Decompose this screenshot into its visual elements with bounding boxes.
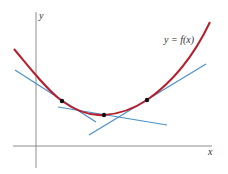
y-axis-label: y xyxy=(38,10,44,21)
tangent-point-1 xyxy=(60,99,64,103)
tangent-line-2 xyxy=(58,107,167,125)
tangent-point-3 xyxy=(145,98,149,102)
tangent-point-2 xyxy=(102,113,106,117)
tangent-lines-diagram: y x y = f(x) xyxy=(0,0,228,174)
x-axis-label: x xyxy=(207,146,213,157)
curve-label: y = f(x) xyxy=(163,34,195,46)
